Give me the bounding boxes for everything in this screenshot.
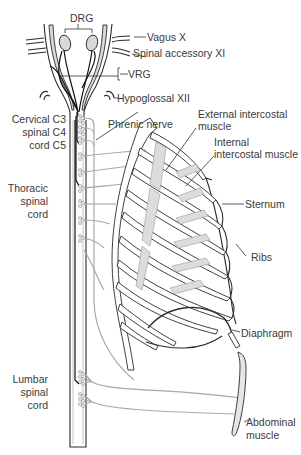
brainstem (44, 24, 112, 120)
label-cervical-c5: cord C5 (29, 139, 66, 151)
label-diaphragm: Diaphragm (241, 327, 293, 339)
label-external-intercostal-1: External intercostal (198, 108, 287, 120)
label-internal-intercostal-1: Internal (214, 136, 249, 148)
cranial-nerves-right (104, 36, 130, 100)
label-drg: DRG (70, 12, 93, 24)
label-lumbar-3: cord (28, 399, 49, 411)
label-thoracic-2: spinal (21, 195, 48, 207)
abdominal-muscle (232, 352, 246, 436)
cervical-motor-neurons (79, 115, 85, 145)
label-lumbar-2: spinal (21, 386, 48, 398)
label-vrg: VRG (128, 68, 151, 80)
label-lumbar-1: Lumbar (12, 373, 48, 385)
lumbar-nerves (85, 374, 240, 414)
label-external-intercostal-2: muscle (198, 120, 231, 132)
thoracic-motor-neurons (79, 153, 85, 243)
label-internal-intercostal-2: intercostal muscle (214, 148, 298, 160)
label-abdominal-1: Abdominal (246, 416, 296, 428)
label-sternum: Sternum (245, 198, 285, 210)
label-thoracic-1: Thoracic (8, 182, 48, 194)
label-ribs: Ribs (251, 251, 272, 263)
label-cervical-c4: spinal C4 (22, 126, 66, 138)
label-cervical-c3: Cervical C3 (12, 113, 66, 125)
lumbar-motor-neurons (79, 371, 85, 408)
label-vagus: Vagus X (147, 31, 186, 43)
label-hypoglossal: Hypoglossal XII (117, 92, 190, 104)
label-thoracic-3: cord (28, 208, 49, 220)
respiratory-control-diagram: DRG Vagus X Spinal accessory XI VRG Hypo… (0, 0, 301, 455)
label-phrenic-nerve: Phrenic nerve (108, 118, 173, 130)
label-abdominal-2: muscle (246, 429, 279, 441)
label-spinal-accessory: Spinal accessory XI (133, 47, 225, 59)
